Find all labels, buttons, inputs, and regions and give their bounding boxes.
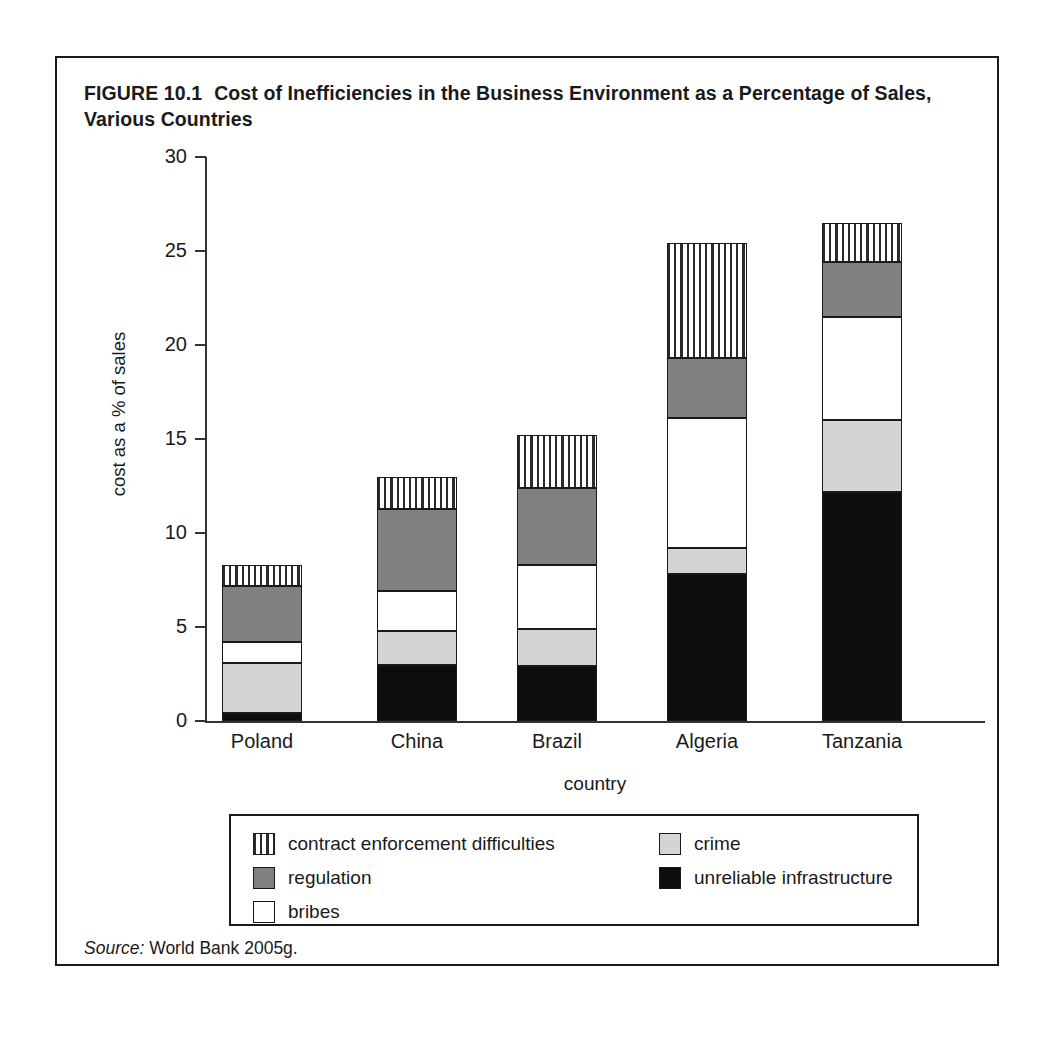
legend-label: regulation (288, 867, 371, 889)
legend-swatch-medium-gray (253, 867, 275, 889)
x-axis-label-brazil: Brazil (477, 730, 637, 753)
bar-segment-contract (667, 243, 747, 358)
bar-segment-infra (222, 713, 302, 721)
bar-segment-infra (377, 665, 457, 721)
bar-segment-crime (667, 548, 747, 574)
legend-item: unreliable infrastructure (659, 864, 909, 892)
bar-segment-bribes (517, 565, 597, 629)
y-axis-tick-label-text: 5 (147, 615, 187, 638)
y-axis-tick-label-text: 15 (147, 427, 187, 450)
bar-segment-bribes (667, 418, 747, 548)
x-axis-label-china: China (337, 730, 497, 753)
y-axis-tick (195, 720, 206, 722)
legend-swatch-light-gray (659, 833, 681, 855)
legend-column-right: crimeunreliable infrastructure (659, 830, 909, 898)
y-axis-tick-label-text: 25 (147, 239, 187, 262)
legend-column-left: contract enforcement difficultiesregulat… (253, 830, 653, 932)
x-axis-label-tanzania: Tanzania (782, 730, 942, 753)
legend-item: crime (659, 830, 909, 858)
bar-algeria (667, 243, 747, 721)
y-axis-tick (195, 626, 206, 628)
bar-segment-crime (222, 663, 302, 714)
legend-label: contract enforcement difficulties (288, 833, 555, 855)
bar-segment-contract (222, 565, 302, 586)
legend-item: regulation (253, 864, 653, 892)
bar-segment-regulation (222, 586, 302, 642)
legend-label: crime (694, 833, 740, 855)
bar-segment-bribes (377, 591, 457, 630)
bar-segment-crime (822, 420, 902, 491)
y-axis-title: cost as a % of sales (108, 299, 130, 529)
y-axis-tick (195, 156, 206, 158)
legend-swatch-vertical-hatch (253, 833, 275, 855)
y-axis-tick-label-text: 10 (147, 521, 187, 544)
source-label: Source: (84, 938, 144, 958)
y-axis-tick-label-text: 20 (147, 333, 187, 356)
bar-segment-regulation (377, 509, 457, 592)
bar-china (377, 477, 457, 721)
bar-poland (222, 565, 302, 721)
x-axis-title: country (205, 773, 985, 795)
legend-label: bribes (288, 901, 340, 923)
bar-segment-crime (377, 631, 457, 665)
x-axis-line (205, 721, 985, 723)
bar-segment-infra (822, 492, 902, 721)
y-axis-tick (195, 438, 206, 440)
y-axis-tick (195, 344, 206, 346)
y-axis-line (205, 157, 207, 723)
bar-segment-bribes (822, 317, 902, 420)
legend-swatch-solid-black (659, 867, 681, 889)
bar-segment-regulation (667, 358, 747, 418)
y-axis-tick-label-text: 30 (147, 145, 187, 168)
bar-segment-bribes (222, 642, 302, 663)
bar-segment-contract (822, 223, 902, 262)
bar-segment-infra (667, 574, 747, 721)
bar-tanzania (822, 223, 902, 721)
legend-item: contract enforcement difficulties (253, 830, 653, 858)
bar-segment-infra (517, 666, 597, 721)
bar-segment-regulation (822, 262, 902, 317)
bar-segment-contract (377, 477, 457, 509)
legend-swatch-white (253, 901, 275, 923)
x-axis-label-algeria: Algeria (627, 730, 787, 753)
legend-item: bribes (253, 898, 653, 926)
source-text: World Bank 2005g. (149, 938, 298, 958)
y-axis-tick-label-text: 0 (147, 709, 187, 732)
y-axis-tick (195, 250, 206, 252)
bar-segment-contract (517, 435, 597, 488)
chart-legend: contract enforcement difficultiesregulat… (229, 814, 919, 926)
source-note: Source: World Bank 2005g. (84, 938, 298, 959)
figure-frame: FIGURE 10.1Cost of Inefficiencies in the… (55, 56, 999, 966)
bar-segment-crime (517, 629, 597, 667)
x-axis-label-poland: Poland (182, 730, 342, 753)
legend-label: unreliable infrastructure (694, 867, 893, 889)
y-axis-tick (195, 532, 206, 534)
bar-brazil (517, 435, 597, 721)
bar-segment-regulation (517, 488, 597, 565)
